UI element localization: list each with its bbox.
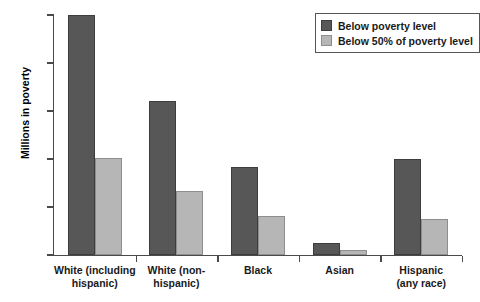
x-axis-category-label: Black (211, 264, 305, 277)
chart-legend: Below poverty level Below 50% of poverty… (315, 13, 480, 53)
x-axis-tick-mark (136, 256, 137, 262)
x-axis-category-label-line: Hispanic (374, 264, 468, 277)
x-axis-category-label-line: (any race) (374, 277, 468, 290)
legend-item-below-50-percent-of-poverty-level: Below 50% of poverty level (321, 33, 473, 48)
x-axis-category-label-line: Black (211, 264, 305, 277)
bar (258, 216, 285, 255)
bar (394, 159, 421, 255)
x-axis-category-label: White (non-hispanic) (130, 264, 224, 290)
bar (340, 250, 367, 255)
y-axis-tick-mark (47, 254, 53, 255)
x-axis-tick-mark (217, 256, 218, 262)
bar (231, 167, 258, 255)
x-axis-category-label-line: Asian (293, 264, 387, 277)
x-axis-line (53, 255, 462, 256)
x-axis-category-label-line: White (including (48, 264, 142, 277)
x-axis-category-label-line: hispanic) (48, 277, 142, 290)
bar (421, 219, 448, 255)
y-axis-tick-mark (47, 110, 53, 111)
bar (68, 15, 95, 255)
x-axis-category-label: Hispanic(any race) (374, 264, 468, 290)
legend-item-label: Below poverty level (338, 20, 436, 32)
x-axis-tick-mark (462, 256, 463, 262)
x-axis-tick-mark (380, 256, 381, 262)
bar (313, 243, 340, 255)
bar (176, 191, 203, 255)
bar (149, 101, 176, 255)
x-axis-category-label: Asian (293, 264, 387, 277)
y-axis-tick-mark (47, 206, 53, 207)
y-axis-title: Millions in poverty (19, 48, 31, 178)
bar (95, 158, 122, 255)
y-axis-tick-mark (47, 62, 53, 63)
legend-item-below-poverty-level: Below poverty level (321, 18, 473, 33)
dark-swatch-icon (321, 20, 332, 31)
y-axis-tick-mark (47, 158, 53, 159)
x-axis-tick-mark (299, 256, 300, 262)
x-axis-category-label-line: hispanic) (130, 277, 224, 290)
light-swatch-icon (321, 35, 332, 46)
y-axis-tick-mark (47, 14, 53, 15)
legend-item-label: Below 50% of poverty level (338, 35, 473, 47)
x-axis-category-label: White (includinghispanic) (48, 264, 142, 290)
x-axis-category-label-line: White (non- (130, 264, 224, 277)
